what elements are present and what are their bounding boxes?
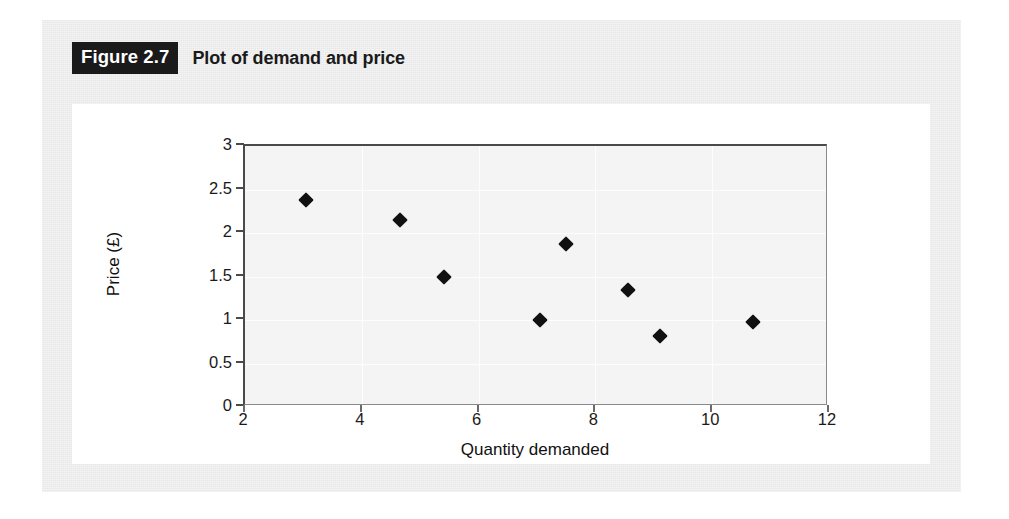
- chart-card: 00.511.522.53 24681012 Quantity demanded…: [72, 104, 930, 464]
- y-tick-label: 1: [223, 309, 232, 328]
- figure-panel: Figure 2.7 Plot of demand and price 00.5…: [42, 20, 961, 492]
- gridline-x-4: [712, 146, 713, 404]
- y-tick-label: 3: [223, 135, 232, 154]
- x-axis-title: Quantity demanded: [243, 440, 827, 460]
- gridline-x-2: [479, 146, 480, 404]
- scatter-chart: 00.511.522.53 24681012 Quantity demanded…: [72, 104, 930, 464]
- y-tick-mark: [236, 187, 244, 189]
- y-tick-mark: [236, 143, 244, 145]
- y-tick-label: 1.5: [209, 265, 232, 284]
- gridline-y-3: [245, 277, 826, 278]
- data-point: [436, 270, 452, 286]
- y-axis-title: Price (£): [104, 184, 124, 344]
- data-point: [620, 282, 636, 298]
- gridline-y-5: [245, 190, 826, 191]
- data-point: [558, 237, 574, 253]
- gridline-x-1: [362, 146, 363, 404]
- x-tick-label: 10: [701, 410, 719, 429]
- y-tick-mark: [236, 317, 244, 319]
- figure-caption-text: Plot of demand and price: [192, 48, 405, 69]
- x-tick-label: 6: [472, 410, 481, 429]
- y-tick-label: 2.5: [209, 178, 232, 197]
- y-tick-mark: [236, 361, 244, 363]
- y-axis-tick-labels: 00.511.522.53: [180, 144, 232, 405]
- x-axis-tick-labels: 24681012: [243, 410, 827, 434]
- figure-caption-row: Figure 2.7 Plot of demand and price: [72, 42, 405, 74]
- gridline-y-1: [245, 364, 826, 365]
- data-point: [532, 312, 548, 328]
- gridline-y-4: [245, 233, 826, 234]
- data-point: [745, 314, 761, 330]
- y-tick-label: 2: [223, 222, 232, 241]
- y-tick-mark: [236, 230, 244, 232]
- x-tick-label: 4: [355, 410, 364, 429]
- gridline-x-3: [595, 146, 596, 404]
- x-tick-label: 8: [589, 410, 598, 429]
- y-tick-label: 0: [223, 396, 232, 415]
- plot-area: [243, 144, 827, 405]
- data-point: [392, 212, 408, 228]
- x-tick-label: 2: [238, 410, 247, 429]
- x-tick-label: 12: [818, 410, 836, 429]
- data-point: [652, 328, 668, 344]
- y-tick-mark: [236, 274, 244, 276]
- figure-number-badge: Figure 2.7: [72, 42, 178, 74]
- y-tick-label: 0.5: [209, 352, 232, 371]
- data-point: [299, 192, 315, 208]
